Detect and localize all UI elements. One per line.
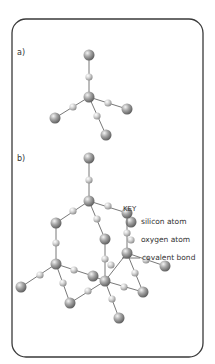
- silicon-atom-icon: [100, 276, 111, 287]
- oxygen-atom-icon: [101, 255, 108, 262]
- oxygen-atom-icon: [85, 73, 92, 80]
- diagram-frame: [12, 19, 203, 357]
- silicon-atom-icon: [50, 113, 61, 124]
- silicon-atom-icon: [84, 50, 95, 61]
- oxygen-atom-icon: [104, 202, 111, 209]
- oxygen-atom-icon: [108, 295, 115, 302]
- oxygen-atom-icon: [107, 261, 114, 268]
- silicon-atom-icon: [101, 130, 112, 141]
- oxygen-atom-icon: [93, 112, 100, 119]
- key-silicon-label: silicon atom: [141, 217, 186, 226]
- key-oxygen-label: oxygen atom: [141, 235, 190, 244]
- silicon-atom-icon: [122, 104, 133, 115]
- key-title: KEY: [123, 205, 136, 213]
- oxygen-atom-icon: [131, 269, 138, 276]
- oxygen-atom-icon: [69, 207, 76, 214]
- oxygen-atom-icon: [70, 266, 77, 273]
- oxygen-atom-icon: [123, 229, 130, 236]
- silicon-atom-icon: [160, 261, 171, 272]
- oxygen-atom-icon: [69, 103, 76, 110]
- oxygen-atom-icon: [52, 239, 59, 246]
- silicon-atom-icon: [84, 92, 95, 103]
- oxygen-atom-icon: [93, 215, 100, 222]
- structure-a-atoms: [50, 50, 133, 141]
- oxygen-atom-icon: [59, 279, 66, 286]
- silicon-atom-icon: [51, 259, 62, 270]
- silicon-atom-icon: [138, 287, 149, 298]
- oxygen-atom-icon: [120, 283, 127, 290]
- oxygen-atom-icon: [84, 287, 91, 294]
- part-a-label: a): [17, 48, 25, 57]
- key-bond-label: covalent bond: [142, 253, 195, 262]
- oxygen-atom-icon: [36, 271, 43, 278]
- silicon-dioxide-diagram: [0, 0, 215, 364]
- silicon-atom-icon: [100, 234, 111, 245]
- silicon-atom-icon: [65, 298, 76, 309]
- silicon-atom-icon: [84, 196, 95, 207]
- silicon-atom-icon: [122, 248, 133, 259]
- silicon-atom-icon: [16, 282, 27, 293]
- silicon-atom-icon: [88, 271, 99, 282]
- oxygen-atom-icon: [85, 176, 92, 183]
- silicon-atom-icon: [51, 218, 62, 229]
- part-b-label: b): [17, 154, 25, 163]
- silicon-atom-icon: [114, 313, 125, 324]
- silicon-atom-icon: [84, 153, 95, 164]
- key-oxygen-atom-icon: [127, 236, 134, 243]
- oxygen-atom-icon: [104, 99, 111, 106]
